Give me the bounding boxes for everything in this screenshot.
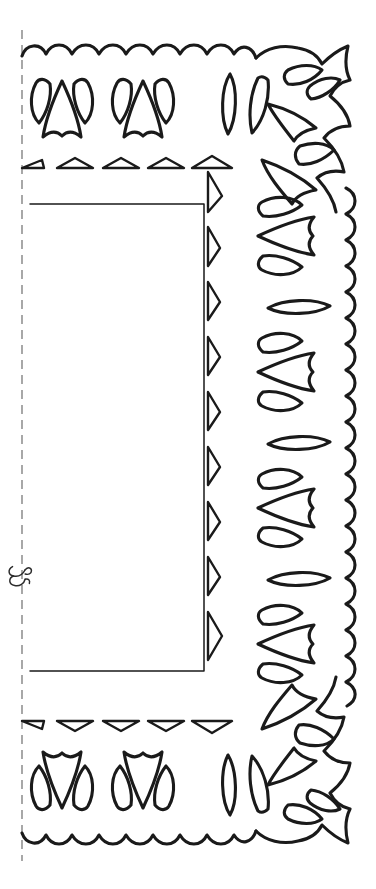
pattern-artwork (0, 0, 376, 889)
pattern-sheet: Scalloped Tulip Border Cutting Pattern B… (0, 0, 376, 889)
